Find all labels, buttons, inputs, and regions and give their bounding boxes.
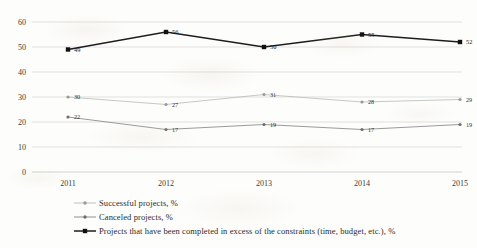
label-canceled-2012: 17 <box>172 126 178 133</box>
label-successful-2013: 31 <box>270 91 276 98</box>
x-tick-2011: 2011 <box>60 179 76 188</box>
point-canceled-2014 <box>360 128 363 131</box>
legend-label-canceled: Canceled projects, % <box>99 212 173 222</box>
y-tick-10: 10 <box>18 143 26 152</box>
point-successful-2015 <box>458 98 461 101</box>
label-canceled-2015: 19 <box>466 121 472 128</box>
legend-key-canceled-icon <box>74 212 96 222</box>
point-excess-2015 <box>458 40 462 44</box>
label-excess-2011: 49 <box>74 46 80 53</box>
label-excess-2015: 52 <box>466 38 472 45</box>
label-excess-2012: 56 <box>172 28 178 35</box>
point-successful-2014 <box>360 100 363 103</box>
series-successful-projects: 30 27 31 28 29 <box>66 91 472 108</box>
legend-item-successful: Successful projects, % <box>74 196 477 210</box>
legend-key-excess-icon <box>74 226 96 236</box>
series-excess-constraints-projects: 49 56 50 55 52 <box>66 28 473 53</box>
label-successful-2015: 29 <box>466 96 472 103</box>
x-tick-2012: 2012 <box>158 179 174 188</box>
point-canceled-2015 <box>458 123 461 126</box>
legend-label-excess: Projects that have been completed in exc… <box>99 226 395 236</box>
x-tick-2013: 2013 <box>256 179 272 188</box>
legend-item-excess: Projects that have been completed in exc… <box>74 224 477 238</box>
line-chart-svg: 60 50 40 30 20 10 0 30 27 31 28 29 <box>0 0 477 192</box>
label-successful-2012: 27 <box>172 101 178 108</box>
x-axis-ticks: 2011 2012 2013 2014 2015 <box>60 179 468 188</box>
label-successful-2014: 28 <box>368 98 374 105</box>
series-canceled-projects: 22 17 19 17 19 <box>66 113 472 133</box>
y-tick-60: 60 <box>18 18 26 27</box>
y-axis-ticks: 60 50 40 30 20 10 0 <box>18 18 26 177</box>
chart-plot-area: 60 50 40 30 20 10 0 30 27 31 28 29 <box>0 0 477 192</box>
y-tick-0: 0 <box>22 168 26 177</box>
legend-item-canceled: Canceled projects, % <box>74 210 477 224</box>
label-canceled-2011: 22 <box>74 113 80 120</box>
point-successful-2011 <box>66 95 69 98</box>
label-canceled-2013: 19 <box>270 121 276 128</box>
y-tick-40: 40 <box>18 68 26 77</box>
legend-label-successful: Successful projects, % <box>99 198 178 208</box>
label-successful-2011: 30 <box>74 93 80 100</box>
point-successful-2013 <box>262 93 265 96</box>
y-tick-30: 30 <box>18 93 26 102</box>
label-excess-2014: 55 <box>368 31 374 38</box>
point-successful-2012 <box>164 103 167 106</box>
point-excess-2011 <box>66 47 70 51</box>
point-canceled-2011 <box>66 115 69 118</box>
chart-legend: Successful projects, % Canceled projects… <box>0 196 477 248</box>
x-tick-2015: 2015 <box>452 179 468 188</box>
y-tick-50: 50 <box>18 43 26 52</box>
point-canceled-2013 <box>262 123 265 126</box>
x-tick-2014: 2014 <box>354 179 370 188</box>
y-tick-20: 20 <box>18 118 26 127</box>
point-canceled-2012 <box>164 128 167 131</box>
label-canceled-2014: 17 <box>368 126 374 133</box>
label-excess-2013: 50 <box>270 43 276 50</box>
legend-key-successful-icon <box>74 198 96 208</box>
point-excess-2013 <box>262 45 266 49</box>
point-excess-2014 <box>360 32 364 36</box>
point-excess-2012 <box>164 30 168 34</box>
